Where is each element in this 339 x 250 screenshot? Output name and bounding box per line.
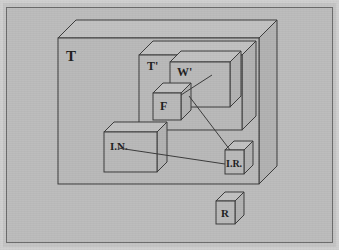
block-IR: I.R. <box>225 141 253 174</box>
block-Wp-top-face <box>170 51 241 62</box>
block-Tp-label: T' <box>147 59 158 73</box>
diagram-artwork: T T' W' F I.N. <box>0 0 339 250</box>
block-T-label: T <box>66 48 76 64</box>
block-IR-label: I.R. <box>226 158 243 169</box>
block-R: R <box>216 192 244 224</box>
block-IN-front-face <box>104 132 157 172</box>
block-T-top-face <box>58 20 277 38</box>
block-IN-top-face <box>104 122 167 132</box>
block-T-right-face <box>259 20 277 184</box>
block-IN: I.N. <box>104 122 167 172</box>
block-IN-label: I.N. <box>110 140 128 152</box>
figure-canvas: T T' W' F I.N. <box>0 0 339 250</box>
block-R-label: R <box>221 207 230 219</box>
block-F-label: F <box>160 99 167 113</box>
block-F: F <box>153 83 191 120</box>
block-Wp-label: W' <box>177 65 192 79</box>
block-Tp-right-face <box>242 41 256 130</box>
